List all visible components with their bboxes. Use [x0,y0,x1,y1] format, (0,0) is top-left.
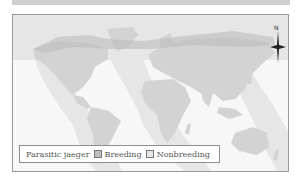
legend-nonbreeding-label: Nonbreeding [157,150,210,159]
breeding-swatch-icon [94,150,102,158]
compass-star-icon [270,31,286,71]
compass-north-label: N [274,24,279,31]
nonbreeding-swatch-icon [146,150,154,158]
southeast-asia-islands [217,107,243,119]
madagascar [185,123,191,135]
legend-species-label: Parasitic jaeger [26,150,90,159]
top-band [12,0,290,5]
map-legend: Parasitic jaeger Breeding Nonbreeding [19,145,220,163]
north-arrow-compass: N [270,24,286,64]
india [201,91,213,107]
legend-breeding-label: Breeding [105,150,142,159]
